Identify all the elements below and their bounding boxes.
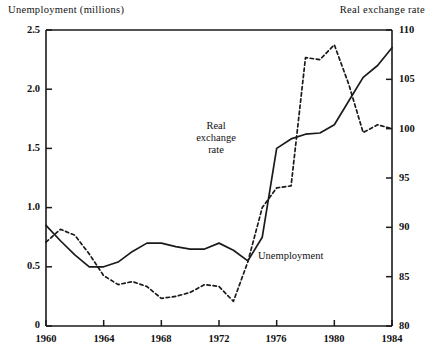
right-tick-110: 110 — [399, 24, 431, 35]
right-axis-ticks — [386, 30, 392, 326]
annotation-line-2: exchange — [186, 132, 246, 144]
right-tick-80: 80 — [399, 320, 431, 331]
left-axis-title: Unemployment (millions) — [8, 4, 124, 15]
x-tick-1960: 1960 — [20, 333, 72, 344]
right-tick-90: 90 — [399, 221, 431, 232]
right-tick-105: 105 — [399, 73, 431, 84]
left-axis-ticks — [46, 30, 52, 326]
series-annotation-unemployment: Unemployment — [258, 250, 348, 262]
left-tick-2-0: 2.0 — [0, 83, 40, 94]
x-tick-1976: 1976 — [250, 333, 302, 344]
right-tick-100: 100 — [399, 123, 431, 134]
annotation-line-1: Real — [186, 120, 246, 132]
x-tick-1964: 1964 — [78, 333, 130, 344]
right-axis-title: Real exchange rate — [340, 4, 425, 15]
series-annotation-real-exchange-rate: Real exchange rate — [186, 120, 246, 156]
left-tick-2-5: 2.5 — [0, 24, 40, 35]
annotation-line-3: rate — [186, 144, 246, 156]
series-line-unemployment — [46, 48, 392, 267]
plot-area — [0, 0, 431, 360]
left-tick-0: 0 — [0, 319, 40, 330]
left-tick-1-0: 1.0 — [0, 201, 40, 212]
series-line-real-exchange-rate — [46, 45, 392, 302]
chart-figure: Unemployment (millions) Real exchange ra… — [0, 0, 431, 360]
right-tick-95: 95 — [399, 172, 431, 183]
x-axis-ticks — [46, 320, 392, 326]
left-tick-1-5: 1.5 — [0, 142, 40, 153]
x-tick-1980: 1980 — [308, 333, 360, 344]
left-tick-0-5: 0.5 — [0, 260, 40, 271]
right-tick-85: 85 — [399, 271, 431, 282]
x-tick-1984: 1984 — [366, 333, 418, 344]
x-tick-1972: 1972 — [193, 333, 245, 344]
x-tick-1968: 1968 — [135, 333, 187, 344]
